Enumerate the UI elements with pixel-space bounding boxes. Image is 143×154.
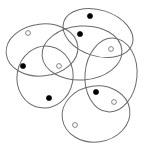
filled-point-p4	[87, 13, 92, 18]
hollow-point-p3	[57, 64, 62, 69]
hollow-point-p10	[73, 123, 78, 128]
hollow-point-p6	[109, 47, 114, 52]
filled-point-p7	[46, 95, 51, 100]
ellipse-top-left	[3, 20, 80, 79]
filled-point-p5	[77, 31, 82, 36]
ellipse-left-lower	[12, 42, 78, 113]
filled-point-p2	[20, 63, 25, 68]
hollow-point-p9	[112, 100, 117, 105]
ellipse-diagram	[0, 0, 143, 154]
filled-point-p8	[93, 89, 98, 94]
ellipses-group	[3, 0, 140, 146]
ellipse-top-right	[57, 0, 140, 66]
hollow-point-p1	[26, 31, 31, 36]
